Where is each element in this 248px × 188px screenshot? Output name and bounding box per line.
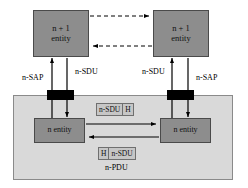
n-sdu-label-right: n-SDU bbox=[142, 67, 165, 76]
pdu-bottom-cell-1: n-SDU bbox=[108, 148, 134, 159]
n-entity-left-label: n entity bbox=[47, 126, 71, 135]
n-entity-right-label: n entity bbox=[173, 126, 197, 135]
pdu-bottom-cell-0: H bbox=[99, 148, 108, 159]
n-sap-block-left bbox=[47, 90, 74, 100]
pdu-bottom: H n-SDU bbox=[98, 147, 136, 160]
n-plus-1-entity-left: n + 1 entity bbox=[33, 10, 89, 57]
n-plus-1-entity-left-line2: entity bbox=[51, 34, 70, 43]
n-plus-1-entity-right-line2: entity bbox=[171, 34, 190, 43]
n-entity-right: n entity bbox=[160, 118, 211, 143]
pdu-top-cell-0: n-SDU bbox=[97, 104, 122, 115]
n-sap-label-right: n-SAP bbox=[196, 73, 217, 82]
n-pdu-label: n-PDU bbox=[105, 163, 128, 172]
n-sap-label-left: n-SAP bbox=[22, 73, 43, 82]
pdu-top-cell-1: H bbox=[122, 104, 132, 115]
n-plus-1-entity-right: n + 1 entity bbox=[153, 10, 209, 57]
n-entity-left: n entity bbox=[34, 118, 85, 143]
n-sap-block-right bbox=[167, 90, 194, 100]
n-sdu-label-left: n-SDU bbox=[75, 67, 98, 76]
pdu-top: n-SDU H bbox=[96, 103, 134, 116]
diagram-canvas: n + 1 entity n + 1 entity n entity n ent… bbox=[0, 0, 248, 188]
